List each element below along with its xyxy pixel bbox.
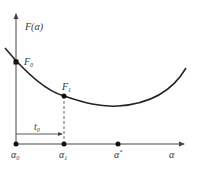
point-F1 [62, 94, 67, 99]
label-t0: t0 [34, 121, 40, 133]
x-axis-label: α [169, 149, 175, 160]
label-alpha1: α1 [59, 149, 67, 161]
objective-curve [5, 48, 186, 106]
point-alpha0 [14, 142, 19, 147]
y-axis-label: F(α) [24, 21, 44, 33]
point-alpha1 [62, 142, 67, 147]
label-alpha-star: α* [114, 149, 122, 160]
point-F0 [14, 60, 19, 65]
label-alpha0: α0 [11, 149, 19, 161]
diagram-canvas: F(α) F0 F1 t0 α0 α1 α* α [0, 0, 199, 174]
label-F0: F0 [23, 56, 33, 68]
label-F1: F1 [61, 81, 71, 93]
point-alpha-star [116, 142, 121, 147]
